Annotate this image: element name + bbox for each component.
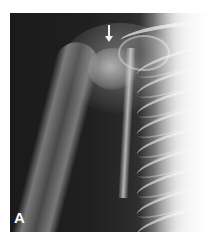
down-arrow-icon: [107, 25, 111, 43]
xray-image: [10, 13, 210, 232]
right-fade: [140, 13, 210, 232]
arrow-head: [105, 36, 113, 42]
panel-label: A: [14, 210, 25, 225]
